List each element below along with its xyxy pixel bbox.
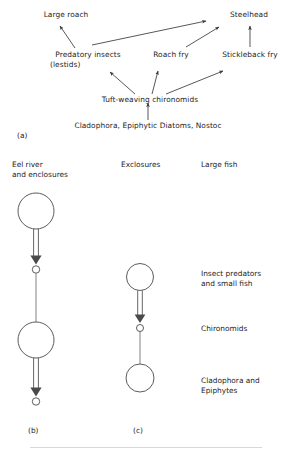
panel-c-arrow-head	[135, 315, 146, 324]
panel-c-tag: (c)	[133, 426, 143, 435]
edge-predatory-insects-to-steelhead	[92, 21, 206, 45]
panel-b-tag: (b)	[28, 426, 38, 435]
trophic-header-large-fish: Large fish	[201, 160, 237, 170]
trophic-label-chironomids: Chironomids	[201, 324, 247, 334]
panel-b-node-small-circle-lower	[32, 398, 39, 405]
node-large-roach: Large roach	[44, 10, 89, 19]
panel-c-header: Exclosures	[121, 160, 160, 170]
panel-b-arrow1-head	[30, 256, 41, 265]
panel-c-node-small-circle	[137, 325, 144, 332]
node-basal-resources: Cladophora, Epiphytic Diatoms, Nostoc	[74, 121, 221, 130]
panel-b-node-large-circle-top	[18, 193, 54, 229]
panel-b-node-small-circle-upper	[32, 266, 39, 273]
bottom-caption-rule	[30, 447, 262, 448]
node-roach-fry: Roach fry	[153, 50, 189, 59]
node-predatory-insects-line2: (lestids)	[50, 60, 80, 69]
food-web-figure: Large roach Steelhead Predatory insects …	[0, 0, 289, 450]
panel-a-tag: (a)	[17, 131, 27, 140]
node-steelhead: Steelhead	[230, 10, 268, 19]
panel-b-header-line2: and enclosures	[12, 170, 68, 180]
trophic-label-cladophora-line1: Cladophora and	[201, 376, 260, 386]
panel-c-node-medium-circle-bottom	[126, 364, 154, 392]
panel-b-chain	[18, 193, 54, 405]
panel-c-node-medium-circle-top	[127, 264, 154, 291]
panel-a-edges	[60, 21, 250, 120]
panel-b-header-line1: Eel river	[12, 160, 43, 170]
edge-chironomids-to-stickleback-fry	[166, 71, 223, 94]
panel-b-arrow2-head	[30, 388, 41, 397]
edge-predatory-insects-to-large-roach	[60, 26, 75, 48]
edge-roach-fry-to-steelhead	[186, 27, 219, 47]
trophic-label-insect-predators-line1: Insect predators	[201, 269, 261, 279]
node-predatory-insects-line1: Predatory insects	[55, 50, 120, 59]
trophic-label-insect-predators-line2: and small fish	[201, 279, 252, 289]
edge-chironomids-to-predatory-insects	[110, 72, 135, 94]
trophic-label-cladophora-line2: Epiphytes	[201, 386, 237, 396]
node-stickleback-fry: Stickleback fry	[222, 50, 278, 59]
node-tuft-weaving-chironomids: Tuft-weaving chironomids	[102, 95, 198, 104]
edge-chironomids-to-roach-fry	[152, 71, 158, 94]
panel-b-node-large-circle-bottom	[18, 322, 54, 358]
panel-c-chain	[126, 264, 154, 393]
